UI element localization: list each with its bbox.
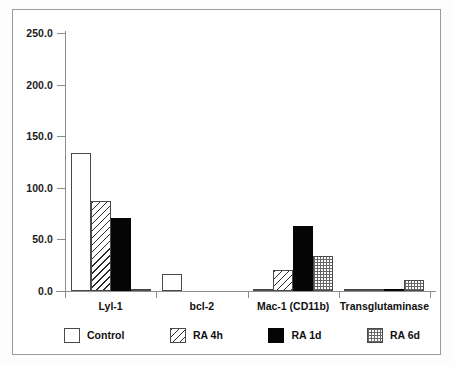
y-tick-label-text: 50.0: [32, 233, 53, 245]
legend-swatch-ra-6d-icon: [367, 328, 383, 343]
bar-control-bcl-2: [162, 274, 182, 291]
legend-label-text: Control: [87, 329, 124, 341]
legend-item-control[interactable]: Control: [64, 328, 124, 343]
legend-swatch-ra-1d-icon: [268, 328, 284, 343]
bar-control-lyl-1: [71, 153, 91, 291]
bar-control-mac-1-cd11b-: [253, 289, 273, 291]
y-tick-mark: [57, 33, 65, 34]
figure-container: 0.050.0100.0150.0200.0250.0 Lyl-1bcl-2Ma…: [0, 0, 454, 366]
x-category-label-bcl-2: bcl-2: [156, 300, 247, 312]
legend-item-ra-4h[interactable]: RA 4h: [170, 328, 223, 343]
chart-legend: ControlRA 4hRA 1dRA 6d: [56, 322, 428, 348]
x-tick-mark: [248, 291, 249, 298]
y-tick-label-text: 100.0: [26, 182, 53, 194]
bar-ra-4h-lyl-1: [91, 201, 111, 291]
bar-ra-1d-transglutaminase: [384, 289, 404, 291]
y-tick-mark: [57, 136, 65, 137]
bar-ra-6d-transglutaminase: [404, 280, 424, 291]
y-tick-label-text: 150.0: [26, 130, 53, 142]
x-tick-mark: [339, 291, 340, 298]
y-tick-label: 50.0: [0, 233, 53, 245]
plot-area: [65, 33, 430, 291]
bar-ra-4h-transglutaminase: [364, 289, 384, 291]
bar-ra-4h-mac-1-cd11b-: [273, 270, 293, 291]
x-tick-mark: [430, 291, 431, 298]
bar-ra-6d-mac-1-cd11b-: [313, 256, 333, 291]
y-tick-label-text: 0.0: [38, 285, 53, 297]
y-tick-mark: [57, 239, 65, 240]
y-tick-label: 250.0: [0, 27, 53, 39]
legend-item-ra-6d[interactable]: RA 6d: [367, 328, 420, 343]
legend-label-text: RA 4h: [193, 329, 223, 341]
legend-swatch-control-icon: [64, 328, 80, 343]
x-category-label-mac-1-cd11b-: Mac-1 (CD11b): [248, 300, 339, 312]
y-tick-label: 100.0: [0, 182, 53, 194]
y-tick-label: 150.0: [0, 130, 53, 142]
y-tick-mark: [57, 291, 65, 292]
x-tick-mark: [65, 291, 66, 298]
legend-label-text: RA 6d: [390, 329, 420, 341]
x-category-label-transglutaminase: Transglutaminase: [339, 300, 430, 312]
y-tick-label-text: 250.0: [26, 27, 53, 39]
legend-item-ra-1d[interactable]: RA 1d: [268, 328, 321, 343]
bar-control-transglutaminase: [344, 289, 364, 291]
legend-label-text: RA 1d: [291, 329, 321, 341]
x-axis-line: [56, 291, 436, 292]
bar-ra-1d-lyl-1: [111, 218, 131, 291]
y-tick-label-text: 200.0: [26, 79, 53, 91]
y-tick-mark: [57, 85, 65, 86]
x-tick-mark: [156, 291, 157, 298]
y-tick-label: 0.0: [0, 285, 53, 297]
bar-ra-1d-mac-1-cd11b-: [293, 226, 313, 291]
legend-swatch-ra-4h-icon: [170, 328, 186, 343]
x-category-label-lyl-1: Lyl-1: [65, 300, 156, 312]
y-tick-label: 200.0: [0, 79, 53, 91]
bar-ra-6d-lyl-1: [131, 289, 151, 291]
y-tick-mark: [57, 188, 65, 189]
